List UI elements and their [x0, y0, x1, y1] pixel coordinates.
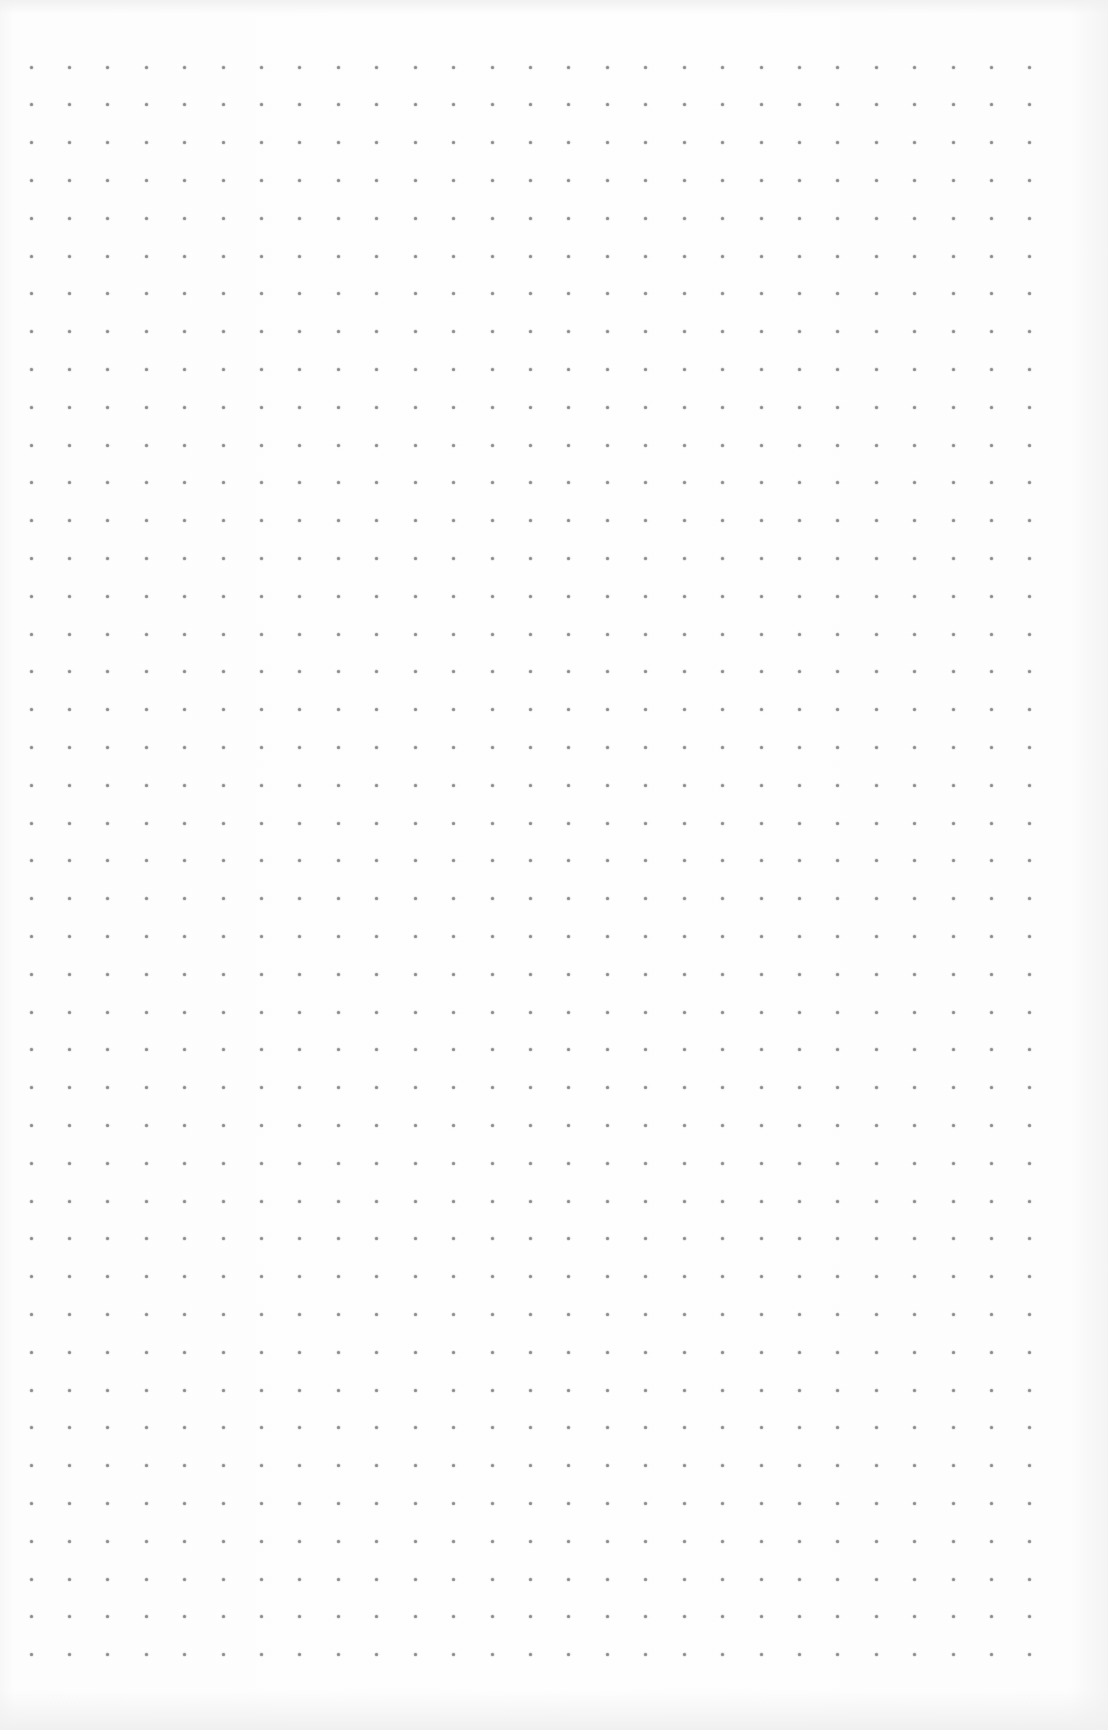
- grid-dot: [644, 1237, 647, 1240]
- grid-dot: [606, 1653, 609, 1656]
- grid-dot: [798, 255, 801, 258]
- grid-dot: [683, 784, 686, 787]
- grid-dot: [913, 557, 916, 560]
- grid-dot: [875, 1653, 878, 1656]
- grid-dot: [337, 1578, 340, 1581]
- grid-dot: [644, 519, 647, 522]
- grid-dot: [337, 1048, 340, 1051]
- grid-dot: [990, 1313, 993, 1316]
- grid-dot: [644, 330, 647, 333]
- grid-dot: [183, 1578, 186, 1581]
- grid-dot: [68, 1011, 71, 1014]
- grid-dot: [1028, 1011, 1031, 1014]
- grid-dot: [567, 1011, 570, 1014]
- grid-dot: [606, 1086, 609, 1089]
- grid-dot: [990, 292, 993, 295]
- grid-dot: [875, 444, 878, 447]
- grid-dot: [798, 595, 801, 598]
- grid-dot: [145, 444, 148, 447]
- grid-dot: [260, 1426, 263, 1429]
- grid-dot: [68, 1048, 71, 1051]
- grid-dot: [222, 481, 225, 484]
- grid-dot: [836, 1313, 839, 1316]
- grid-dot: [491, 1200, 494, 1203]
- grid-dot: [30, 557, 33, 560]
- grid-dot: [990, 1011, 993, 1014]
- grid-dot: [491, 1086, 494, 1089]
- grid-dot: [222, 1200, 225, 1203]
- grid-dot: [644, 1389, 647, 1392]
- grid-dot: [913, 1653, 916, 1656]
- grid-dot: [260, 595, 263, 598]
- grid-dot: [529, 859, 532, 862]
- grid-dot: [260, 1313, 263, 1316]
- grid-dot: [222, 1048, 225, 1051]
- grid-dot: [606, 66, 609, 69]
- grid-dot: [375, 406, 378, 409]
- grid-dot: [913, 595, 916, 598]
- grid-dot: [836, 784, 839, 787]
- grid-dot: [183, 935, 186, 938]
- grid-dot: [798, 1426, 801, 1429]
- grid-dot: [375, 1464, 378, 1467]
- grid-dot: [491, 1162, 494, 1165]
- grid-dot: [452, 1124, 455, 1127]
- grid-dot: [68, 1502, 71, 1505]
- grid-dot: [106, 1200, 109, 1203]
- grid-dot: [183, 1464, 186, 1467]
- grid-dot: [30, 103, 33, 106]
- grid-dot: [183, 103, 186, 106]
- grid-dot: [952, 1540, 955, 1543]
- grid-dot: [375, 1237, 378, 1240]
- grid-dot: [644, 935, 647, 938]
- grid-dot: [183, 1502, 186, 1505]
- grid-dot: [1028, 633, 1031, 636]
- grid-dot: [1028, 897, 1031, 900]
- grid-dot: [836, 1048, 839, 1051]
- grid-dot: [567, 1351, 570, 1354]
- grid-dot: [683, 1426, 686, 1429]
- grid-dot: [491, 292, 494, 295]
- grid-dot: [567, 1086, 570, 1089]
- grid-dot: [875, 141, 878, 144]
- grid-dot: [529, 897, 532, 900]
- grid-dot: [1028, 784, 1031, 787]
- grid-dot: [30, 179, 33, 182]
- grid-dot: [145, 519, 148, 522]
- grid-dot: [798, 935, 801, 938]
- grid-dot: [913, 746, 916, 749]
- grid-dot: [183, 746, 186, 749]
- grid-dot: [760, 1162, 763, 1165]
- grid-dot: [68, 1313, 71, 1316]
- grid-dot: [183, 670, 186, 673]
- grid-dot: [644, 255, 647, 258]
- grid-dot: [298, 595, 301, 598]
- grid-dot: [183, 330, 186, 333]
- grid-dot: [875, 595, 878, 598]
- grid-dot: [68, 1389, 71, 1392]
- grid-dot: [106, 1389, 109, 1392]
- grid-dot: [760, 1011, 763, 1014]
- grid-dot: [106, 822, 109, 825]
- grid-dot: [875, 292, 878, 295]
- grid-dot: [952, 935, 955, 938]
- grid-dot: [30, 368, 33, 371]
- grid-dot: [567, 1200, 570, 1203]
- grid-dot: [606, 859, 609, 862]
- grid-dot: [760, 973, 763, 976]
- grid-dot: [260, 1162, 263, 1165]
- grid-dot: [1028, 519, 1031, 522]
- grid-dot: [760, 1389, 763, 1392]
- grid-dot: [452, 670, 455, 673]
- grid-dot: [183, 897, 186, 900]
- grid-dot: [30, 444, 33, 447]
- grid-dot: [375, 1086, 378, 1089]
- grid-dot: [222, 141, 225, 144]
- grid-dot: [337, 1162, 340, 1165]
- grid-dot: [836, 859, 839, 862]
- grid-dot: [106, 292, 109, 295]
- grid-dot: [145, 670, 148, 673]
- grid-dot: [68, 406, 71, 409]
- grid-dot: [260, 141, 263, 144]
- grid-dot: [183, 1615, 186, 1618]
